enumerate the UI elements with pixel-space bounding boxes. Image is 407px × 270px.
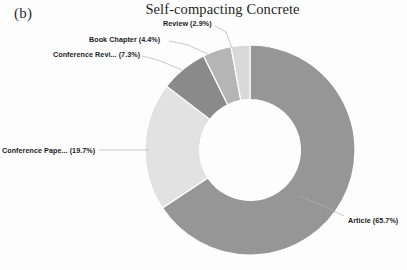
slice-label-conference-review: Conference Revi... (7.3%) (53, 50, 140, 59)
donut-chart (0, 0, 407, 270)
slice-label-review: Review (2.9%) (163, 19, 212, 28)
leader-line-book-chapter (169, 41, 208, 54)
slice-label-conference-paper: Conference Pape... (19.7%) (2, 146, 95, 155)
slice-label-book-chapter: Book Chapter (4.4%) (89, 35, 160, 44)
figure-panel: (b) Self-compacting Concrete Article (65… (0, 0, 407, 270)
leader-line-review (215, 26, 232, 48)
leader-line-conference-review (142, 56, 182, 70)
slice-label-article: Article (65.7%) (348, 216, 398, 225)
donut-slices (145, 45, 355, 255)
